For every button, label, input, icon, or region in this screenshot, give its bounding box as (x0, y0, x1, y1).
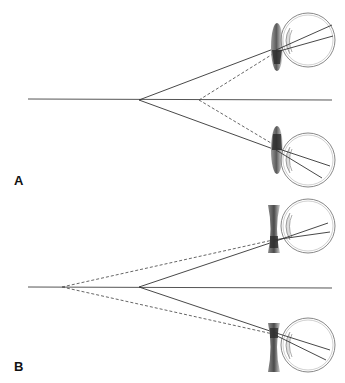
dashed-ray-a-lower (199, 100, 276, 146)
ray-b-lower (139, 287, 273, 332)
panel-label-b: B (14, 359, 23, 374)
ray-a-lower (139, 100, 276, 150)
dashed-ray-b-lower (62, 287, 273, 334)
ray-a-lower-inside-1 (276, 148, 330, 166)
panel-label-a: A (14, 173, 23, 188)
convex-lens-upper (271, 23, 283, 71)
optical-axis-b (28, 287, 332, 288)
ray-a-upper (139, 48, 276, 100)
eye-icon-upper (281, 13, 335, 67)
ray-b-upper (139, 242, 273, 287)
concave-lens-upper (268, 205, 280, 253)
panel-a (28, 13, 335, 187)
eye-icon-lower (281, 133, 335, 187)
ray-a-upper-inside-1 (276, 25, 332, 50)
ray-a-upper-inside-2 (276, 36, 333, 52)
optical-axis-a (28, 99, 332, 100)
dashed-ray-a-upper (199, 52, 276, 100)
optics-diagram (0, 0, 345, 383)
ray-a-lower-inside-2 (276, 150, 322, 178)
eye-icon-upper-b (281, 199, 335, 253)
concave-lens-lower (268, 323, 280, 372)
dashed-ray-b-upper (62, 240, 273, 287)
eye-icon-lower-b (281, 318, 335, 372)
panel-b (28, 199, 335, 372)
